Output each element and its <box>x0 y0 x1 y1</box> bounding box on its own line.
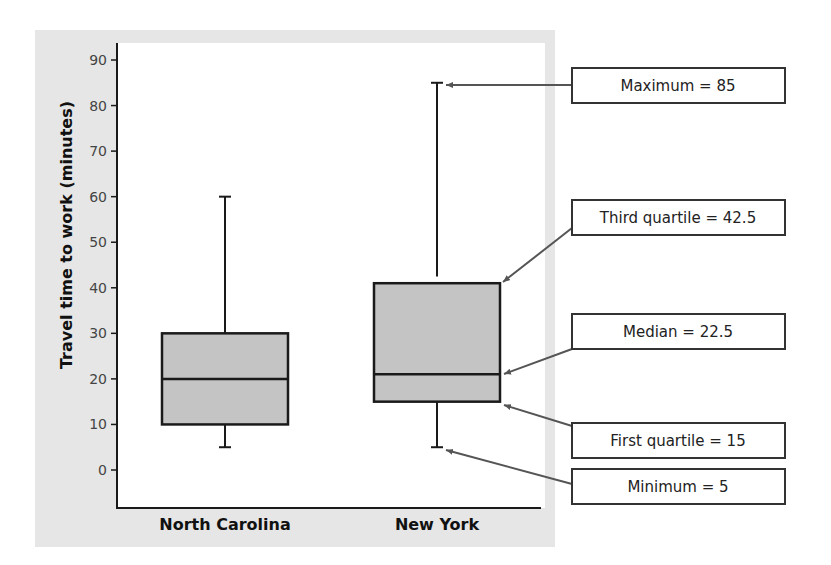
iqr-box <box>374 283 500 401</box>
y-tick-label: 50 <box>89 234 107 250</box>
y-tick-label: 60 <box>89 189 107 205</box>
boxplot-chart: 0102030405060708090 Travel time to work … <box>0 0 831 565</box>
callout-text-first-quartile: First quartile = 15 <box>610 432 745 450</box>
y-tick-label: 0 <box>98 462 107 478</box>
y-tick-label: 70 <box>89 143 107 159</box>
callout-text-median: Median = 22.5 <box>623 323 733 341</box>
y-tick-label: 40 <box>89 280 107 296</box>
y-tick-label: 20 <box>89 371 107 387</box>
callout-text-maximum: Maximum = 85 <box>620 77 735 95</box>
callout-text-third-quartile: Third quartile = 42.5 <box>599 209 756 227</box>
y-tick-label: 30 <box>89 325 107 341</box>
callout-text-minimum: Minimum = 5 <box>627 478 728 496</box>
y-tick-label: 10 <box>89 416 107 432</box>
y-tick-label: 80 <box>89 98 107 114</box>
plot-area <box>117 43 545 508</box>
y-tick-label: 90 <box>89 52 107 68</box>
category-label-north-carolina: North Carolina <box>159 515 290 534</box>
y-axis-title: Travel time to work (minutes) <box>57 101 76 369</box>
category-label-new-york: New York <box>395 515 480 534</box>
